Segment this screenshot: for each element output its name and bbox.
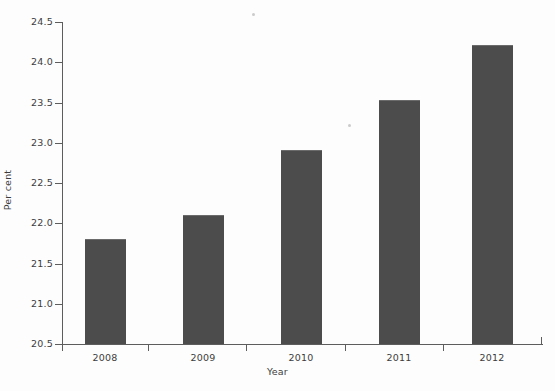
scan-speck bbox=[348, 124, 351, 127]
y-tick-label: 22.0 bbox=[31, 217, 53, 228]
y-tick-mark bbox=[55, 22, 62, 23]
bar-chart: Per cent 24.5 24.0 23.5 23.0 22.5 22.0 2… bbox=[0, 0, 555, 391]
y-tick-mark bbox=[55, 223, 62, 224]
x-tick-mark bbox=[148, 344, 149, 351]
y-tick-mark bbox=[55, 183, 62, 184]
y-tick-label: 20.5 bbox=[31, 338, 53, 349]
y-tick-label: 21.0 bbox=[31, 298, 53, 309]
y-tick-mark bbox=[55, 143, 62, 144]
y-tick-mark bbox=[55, 103, 62, 104]
scan-speck bbox=[252, 13, 255, 16]
x-tick-label-2011: 2011 bbox=[364, 352, 434, 363]
y-tick-label: 23.0 bbox=[31, 137, 53, 148]
bar-2008[interactable] bbox=[85, 239, 126, 344]
bar-2011[interactable] bbox=[379, 100, 420, 344]
bar-2012[interactable] bbox=[472, 45, 513, 344]
y-axis-line bbox=[62, 22, 63, 345]
x-axis-end-tick bbox=[541, 337, 542, 345]
y-tick-mark bbox=[55, 344, 62, 345]
y-tick-mark bbox=[55, 62, 62, 63]
y-tick-label: 24.5 bbox=[31, 16, 53, 27]
y-tick-label: 21.5 bbox=[31, 258, 53, 269]
y-tick-label: 22.5 bbox=[31, 177, 53, 188]
y-tick-mark bbox=[55, 264, 62, 265]
x-tick-label-2008: 2008 bbox=[70, 352, 140, 363]
y-tick-label: 23.5 bbox=[31, 97, 53, 108]
x-axis-title: Year bbox=[0, 366, 555, 377]
x-tick-label-2009: 2009 bbox=[168, 352, 238, 363]
y-tick-label: 24.0 bbox=[31, 56, 53, 67]
bar-2009[interactable] bbox=[183, 215, 224, 344]
bar-2010[interactable] bbox=[281, 150, 322, 344]
x-axis-line bbox=[62, 344, 543, 345]
x-tick-mark bbox=[246, 344, 247, 351]
x-tick-label-2010: 2010 bbox=[266, 352, 336, 363]
y-axis-title: Per cent bbox=[2, 155, 13, 225]
x-tick-mark bbox=[345, 344, 346, 351]
y-tick-mark bbox=[55, 304, 62, 305]
x-tick-label-2012: 2012 bbox=[457, 352, 527, 363]
x-tick-mark bbox=[62, 344, 63, 351]
x-tick-mark bbox=[443, 344, 444, 351]
